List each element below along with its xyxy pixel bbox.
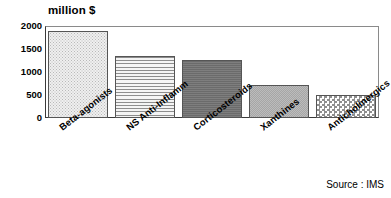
- x-axis-label-anticholinergics: Anticholinergics: [325, 77, 391, 132]
- x-axis-label-corticosteroids: Corticosteroids: [191, 80, 254, 133]
- x-axis-label-ns-anti-inflamm: NS Anti-Inflamm: [124, 78, 190, 133]
- x-axis-label-beta-agonists: Beta-agonists: [57, 85, 114, 133]
- x-axis-label-xanthines: Xanthines: [258, 95, 301, 132]
- source-note: Source : IMS: [326, 179, 384, 190]
